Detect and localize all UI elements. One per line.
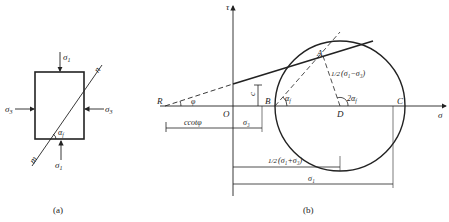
dim-half-sum-frac: 1/2 bbox=[268, 157, 277, 165]
panel-b: τ σ c R O A B C D φ αf 2αf 1/2 (σ₁−σ₃) bbox=[156, 2, 446, 215]
dim-ccot-label: ccotφ bbox=[184, 118, 202, 127]
panel-a: σ1 σ1 σ3 σ3 n m αf (a) bbox=[5, 52, 112, 215]
mohr-coulomb-figure: σ1 σ1 σ3 σ3 n m αf (a) τ σ c R O A bbox=[0, 0, 449, 222]
angle-label-a: αf bbox=[58, 128, 65, 138]
dim-half-sum-label: (σ₁+σ₃) bbox=[278, 156, 303, 165]
caption-a: (a) bbox=[53, 205, 63, 215]
radius-D-A bbox=[323, 56, 340, 106]
right-stress-label: σ3 bbox=[105, 104, 112, 115]
failure-plane-line bbox=[32, 65, 102, 166]
radius-label: (σ₁−σ₃) bbox=[341, 69, 366, 78]
phi-label: φ bbox=[191, 97, 196, 106]
point-A: A bbox=[316, 48, 323, 58]
phi-arc bbox=[180, 101, 181, 106]
radius-frac: 1/2 bbox=[331, 70, 340, 78]
point-C: C bbox=[397, 96, 404, 106]
dim-sigma3-label: σ₃ bbox=[243, 118, 250, 127]
sigma-axis-label: σ bbox=[438, 110, 443, 120]
dim-sigma1-label: σ₁ bbox=[308, 174, 315, 183]
cohesion-label: c bbox=[247, 92, 257, 96]
caption-b: (b) bbox=[303, 205, 314, 215]
left-stress-label: σ3 bbox=[5, 104, 12, 115]
point-R: R bbox=[156, 96, 163, 106]
plane-end-m: m bbox=[27, 154, 39, 165]
tau-axis-label: τ bbox=[226, 2, 230, 12]
point-O: O bbox=[223, 109, 230, 119]
point-B: B bbox=[265, 96, 271, 106]
bottom-stress-label: σ1 bbox=[55, 160, 62, 171]
envelope-extension bbox=[165, 84, 233, 106]
alpha-label-b: αf bbox=[285, 94, 292, 104]
two-alpha-label: 2αf bbox=[347, 94, 358, 104]
top-stress-label: σ1 bbox=[63, 52, 70, 63]
point-D: D bbox=[336, 109, 344, 119]
